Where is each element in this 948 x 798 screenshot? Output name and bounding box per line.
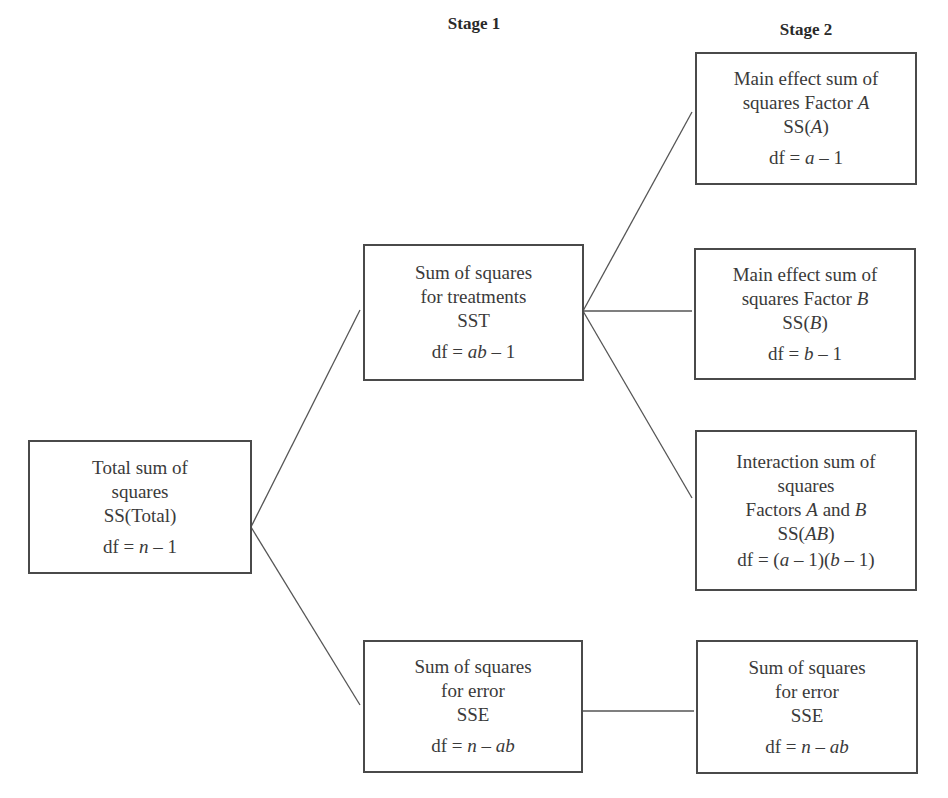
box-text: for treatments [420, 285, 526, 309]
ss-label: SS(B) [782, 311, 827, 335]
df-formula: df = n – ab [765, 735, 849, 759]
ss-label: SS(A) [783, 115, 828, 139]
ss-label: SSE [791, 704, 824, 728]
connector-total-to-error [251, 527, 360, 705]
box-text: Sum of squares [415, 261, 532, 285]
box-text: Interaction sum of [736, 450, 875, 474]
df-formula: df = n – ab [431, 734, 515, 758]
total-sum-of-squares-box: Total sum of squares SS(Total) df = n – … [28, 440, 252, 574]
df-formula: df = ab – 1 [432, 340, 516, 364]
factor-a-main-effect-box: Main effect sum of squares Factor A SS(A… [695, 52, 917, 185]
ss-label: SS(AB) [777, 522, 834, 546]
ss-label: SST [457, 309, 490, 333]
df-formula: df = b – 1 [768, 342, 842, 366]
connector-treatments-to-a [583, 112, 692, 311]
box-text: Main effect sum of [734, 67, 879, 91]
box-text: Total sum of [92, 456, 188, 480]
stage-2-header: Stage 2 [706, 20, 906, 40]
box-text: Sum of squares [748, 656, 865, 680]
connector-treatments-to-ab [583, 311, 692, 498]
df-formula: df = (a – 1)(b – 1) [737, 548, 874, 572]
interaction-box: Interaction sum of squares Factors A and… [695, 430, 917, 591]
treatments-sum-of-squares-box: Sum of squares for treatments SST df = a… [363, 244, 584, 381]
ss-label: SS(Total) [104, 504, 177, 528]
factor-b-main-effect-box: Main effect sum of squares Factor B SS(B… [694, 248, 916, 380]
df-formula: df = a – 1 [769, 146, 843, 170]
box-text: for error [775, 680, 839, 704]
error-sum-of-squares-box-stage1: Sum of squares for error SSE df = n – ab [363, 640, 583, 773]
stage-1-header: Stage 1 [374, 14, 574, 34]
df-formula: df = n – 1 [103, 535, 177, 559]
connector-total-to-treatments [251, 310, 360, 527]
box-text: squares Factor A [743, 91, 870, 115]
box-text: Sum of squares [414, 655, 531, 679]
error-sum-of-squares-box-stage2: Sum of squares for error SSE df = n – ab [696, 640, 918, 774]
box-text: Main effect sum of [733, 263, 878, 287]
box-text: squares [778, 474, 835, 498]
box-text: for error [441, 679, 505, 703]
box-text: squares [112, 480, 169, 504]
ss-label: SSE [457, 703, 490, 727]
box-text: squares Factor B [742, 287, 869, 311]
box-text: Factors A and B [746, 498, 867, 522]
